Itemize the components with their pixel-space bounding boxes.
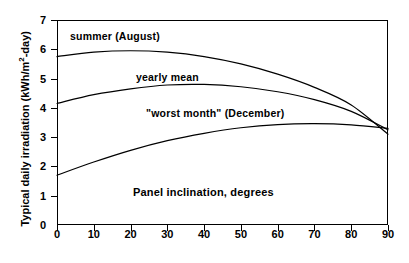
curve-worst-month xyxy=(57,124,388,176)
chart-figure: Typical daily irradiation (kWh/m2-day) 7… xyxy=(0,0,409,263)
annotation-worst-month: "worst month" (December) xyxy=(146,107,284,119)
data-curves xyxy=(0,0,409,263)
x-axis-title: Panel inclination, degrees xyxy=(133,186,274,198)
annotation-summer: summer (August) xyxy=(70,30,160,42)
annotation-yearly-mean: yearly mean xyxy=(136,71,199,83)
